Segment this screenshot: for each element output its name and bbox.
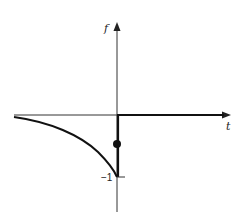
- x-axis-label: t: [226, 120, 231, 133]
- curve-negative-t: [14, 117, 117, 177]
- y-axis-label: f: [103, 22, 110, 35]
- y-axis-arrow-icon: [114, 22, 121, 31]
- point-at-zero: [113, 140, 121, 148]
- chart-canvas: f t −1: [0, 0, 240, 216]
- tick-label-minus-one: −1: [101, 172, 113, 183]
